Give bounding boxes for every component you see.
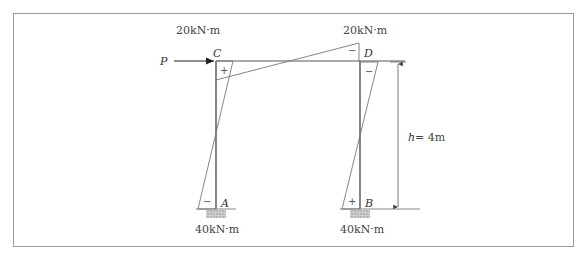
joint-b-label: B: [364, 197, 373, 210]
sign-a-base: −: [203, 196, 211, 207]
sign-d-column: −: [365, 66, 373, 77]
joint-d-label: D: [363, 47, 373, 60]
moment-bottom-right: 40kN·m: [340, 223, 385, 236]
support-a-hatch: [206, 210, 226, 218]
portal-frame-bmd: P h = 4m C D A B 20kN·m 20kN·m 40kN·m 40…: [0, 0, 586, 261]
support-b-hatch: [350, 210, 370, 218]
joint-c-label: C: [213, 47, 222, 60]
moment-top-left: 20kN·m: [176, 24, 221, 37]
sign-d-beam: −: [348, 45, 356, 56]
dimension-h-value: = 4m: [415, 131, 446, 144]
sign-c-corner: +: [220, 65, 228, 76]
moment-top-right: 20kN·m: [343, 24, 388, 37]
moment-bottom-left: 40kN·m: [195, 223, 240, 236]
load-label: P: [159, 55, 168, 68]
sign-b-base: +: [348, 196, 356, 207]
joint-a-label: A: [220, 197, 229, 210]
